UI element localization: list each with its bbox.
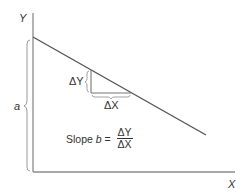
slope-fraction: ΔY ΔX: [117, 127, 133, 150]
slope-equals: =: [102, 133, 114, 145]
regression-line: [33, 37, 206, 135]
intercept-label: a: [14, 101, 20, 112]
y-axis-label: Y: [19, 13, 26, 24]
diagram-canvas: [0, 0, 249, 193]
delta-y-brace: [85, 71, 89, 92]
slope-formula: Slope b = ΔY ΔX: [66, 127, 133, 150]
delta-y-label: ΔY: [69, 76, 84, 87]
slope-prefix: Slope: [66, 133, 96, 145]
delta-x-label: ΔX: [104, 100, 119, 111]
slope-denominator: ΔX: [118, 139, 132, 150]
x-axis-label: X: [228, 179, 235, 190]
intercept-brace: [24, 40, 30, 171]
